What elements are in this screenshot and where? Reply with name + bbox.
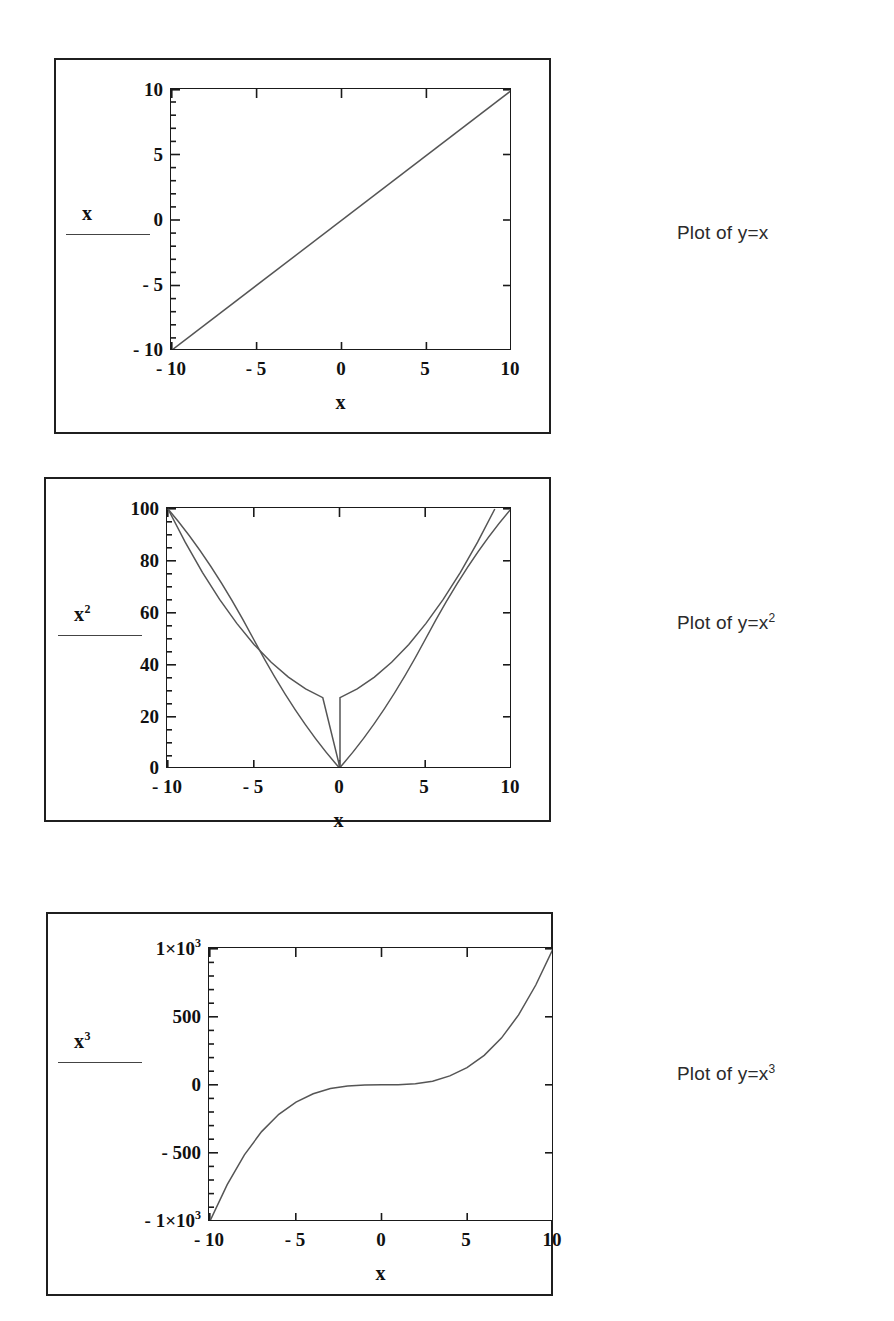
- legend-x3: x3: [58, 1031, 153, 1063]
- annotation-plot-x: Plot of y=x: [677, 222, 768, 244]
- ytick-label: 0: [154, 210, 164, 229]
- axes-x3: 1×103 500 0 - 500 - 1×103 - 10 - 5 0 5 1…: [208, 947, 553, 1221]
- ytick-label: 0: [150, 758, 160, 777]
- xtick-label: 5: [461, 1230, 471, 1249]
- x-axis-title: x: [336, 392, 346, 412]
- ytick-label: 1×103: [156, 939, 201, 958]
- legend-x: x: [66, 203, 161, 235]
- ytick-label: 100: [131, 499, 160, 518]
- annotation-plot-x2: Plot of y=x2: [677, 612, 775, 634]
- xtick-label: 5: [420, 359, 430, 378]
- xtick-label: 0: [336, 359, 346, 378]
- ytick-label: 40: [140, 655, 159, 674]
- plot-sheet: x: [0, 0, 894, 1321]
- annotation-plot-x3: Plot of y=x3: [677, 1063, 775, 1085]
- ytick-label: 20: [140, 707, 159, 726]
- x-axis-title: x: [376, 1263, 386, 1283]
- xtick-label: 10: [501, 359, 520, 378]
- xtick-label: - 10: [152, 777, 182, 796]
- ytick-label: 0: [192, 1075, 202, 1094]
- plot-canvas-x3: [209, 948, 553, 1221]
- legend-label-x2: x2: [58, 604, 153, 624]
- xtick-label: 5: [419, 777, 429, 796]
- xtick-label: - 10: [194, 1230, 224, 1249]
- ytick-label: 60: [140, 603, 159, 622]
- legend-label-x: x: [66, 203, 161, 223]
- ytick-label: - 10: [133, 340, 163, 359]
- legend-line-sample-x3: [58, 1062, 142, 1063]
- legend-line-sample-x2: [58, 635, 142, 636]
- xtick-label: - 5: [285, 1230, 306, 1249]
- xtick-label: 10: [543, 1230, 562, 1249]
- xtick-label: - 5: [243, 777, 264, 796]
- axes-frame-x3: [208, 947, 553, 1221]
- x-axis-title: x: [334, 810, 344, 830]
- axes-x: 10 5 0 - 5 - 10 - 10 - 5 0 5 10 x: [170, 88, 511, 350]
- xtick-label: 10: [501, 777, 520, 796]
- ytick-label: - 1×103: [145, 1211, 201, 1230]
- ytick-label: - 500: [161, 1143, 201, 1162]
- legend-line-sample-x: [66, 234, 150, 235]
- axes-frame-x: [170, 88, 511, 350]
- ytick-label: 5: [154, 145, 164, 164]
- plot-canvas-x2: [167, 508, 511, 768]
- xtick-label: - 10: [156, 359, 186, 378]
- ytick-label: 10: [144, 80, 163, 99]
- plot-canvas-x: [171, 89, 511, 350]
- xtick-label: 0: [376, 1230, 386, 1249]
- axes-frame-x2: [166, 507, 511, 768]
- ytick-label: 80: [140, 551, 159, 570]
- xtick-label: 0: [334, 777, 344, 796]
- axes-x2: 100 80 60 40 20 0 - 10 - 5 0 5 10 x: [166, 507, 511, 768]
- legend-x2: x2: [58, 604, 153, 636]
- ytick-label: - 5: [142, 275, 163, 294]
- ytick-label: 500: [173, 1007, 202, 1026]
- xtick-label: - 5: [246, 359, 267, 378]
- legend-label-x3: x3: [58, 1031, 153, 1051]
